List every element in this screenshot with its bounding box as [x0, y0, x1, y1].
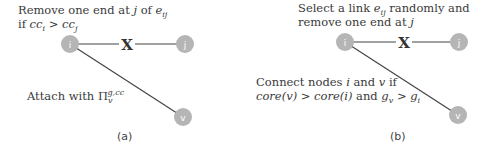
panel-b-bottom-label: Connect nodes i and v if core(v) > core(… — [256, 75, 420, 103]
panel-a-top-line2: if cci > ccj — [18, 17, 167, 31]
svg-text:i: i — [69, 40, 72, 50]
panel-b-top-label: Select a link eij randomly and remove on… — [298, 1, 470, 29]
removed-edge-mark-b: X — [398, 34, 410, 52]
panel-b-bottom-line1: Connect nodes i and v if — [256, 75, 420, 89]
node-j-b: j — [450, 33, 468, 51]
node-i-a: i — [61, 35, 79, 53]
node-v-a: v — [174, 108, 192, 126]
caption-a: (a) — [117, 130, 132, 143]
panel-a-top-label: Remove one end at j of eij if cci > ccj — [18, 3, 167, 31]
svg-text:j: j — [183, 40, 187, 50]
svg-text:j: j — [457, 38, 461, 48]
node-i-b: i — [336, 33, 354, 51]
panel-b-bottom-line2: core(v) > core(i) and gv > gi — [256, 89, 420, 103]
removed-edge-mark-a: X — [121, 36, 133, 54]
svg-text:i: i — [344, 38, 347, 48]
svg-text:v: v — [455, 111, 461, 121]
panel-a-bottom-label: Attach with Πvg,cc — [27, 89, 124, 103]
panel-a-top-line1: Remove one end at j of eij — [18, 3, 167, 17]
node-j-a: j — [176, 35, 194, 53]
svg-text:v: v — [180, 113, 186, 123]
node-v-b: v — [449, 106, 467, 124]
caption-b: (b) — [390, 130, 406, 143]
panel-b-top-line2: remove one end at j — [298, 15, 470, 29]
edge-i-v-a — [70, 44, 183, 117]
panel-b-top-line1: Select a link eij randomly and — [298, 1, 470, 15]
